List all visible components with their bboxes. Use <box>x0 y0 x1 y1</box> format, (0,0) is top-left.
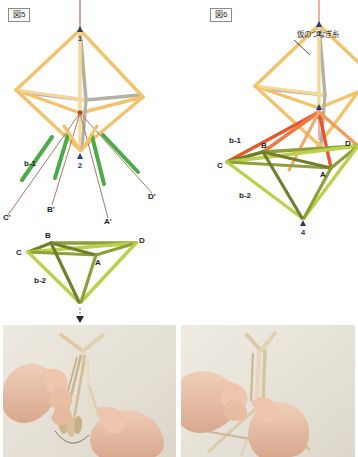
straw-olive-b-apex-6 <box>263 152 302 218</box>
straw-tan-upper-left <box>16 30 80 90</box>
label-b2: b-2 <box>34 276 47 285</box>
label-d-6: D <box>345 139 351 148</box>
straw-green-b <box>55 135 68 178</box>
figure-panel-5: 図5 1 <box>0 0 179 325</box>
marker-1-triangle <box>77 26 83 32</box>
photo-tying-apex <box>181 325 355 457</box>
figure-5-drawing: 1 2 b-1 C' B' A' D' <box>0 0 179 325</box>
straw-yellowgreen-c-apex-6 <box>227 162 302 218</box>
label-a: A <box>95 258 101 267</box>
label-a-prime: A' <box>104 217 112 226</box>
straw-green-a <box>92 136 104 184</box>
straw-olive-b-apex <box>51 243 79 302</box>
photo-strip <box>0 325 358 457</box>
figure-panel-6: 図6 1 3 <box>179 0 358 325</box>
down-dashed-arrow-head <box>76 316 84 323</box>
straw-tan-upper-right <box>80 30 143 97</box>
label-b1-6: b-1 <box>229 136 242 145</box>
figure-6-drawing: 1 3 b-1 B C D A b-2 4 <box>179 0 358 325</box>
label-b-6: B <box>261 141 267 150</box>
label-c-6: C <box>217 161 223 170</box>
marker-2-label: 2 <box>78 161 83 170</box>
marker-2-triangle <box>77 153 83 159</box>
straw-olive-a-apex-6 <box>304 168 331 218</box>
marker-1-triangle-6 <box>316 21 322 27</box>
label-d: D <box>139 236 145 245</box>
label-b: B <box>45 231 51 240</box>
marker-4-triangle <box>300 220 306 226</box>
straw-yellowgreen-d-apex-6 <box>304 146 358 218</box>
callout-text: 仮のつなぎ糸 <box>297 31 339 39</box>
label-b-prime: B' <box>47 205 55 214</box>
marker-4-label: 4 <box>301 228 306 237</box>
photo-assembling-strands <box>3 325 176 457</box>
label-c: C <box>16 248 22 257</box>
label-d-prime: D' <box>148 192 156 201</box>
label-b2-6: b-2 <box>239 191 252 200</box>
label-b1: b-1 <box>24 159 37 168</box>
label-a-6: A <box>320 170 326 179</box>
marker-1-label: 1 <box>78 34 83 43</box>
thread-to-c <box>8 113 80 215</box>
label-c-prime: C' <box>3 213 11 222</box>
straw-green-d <box>103 135 138 172</box>
